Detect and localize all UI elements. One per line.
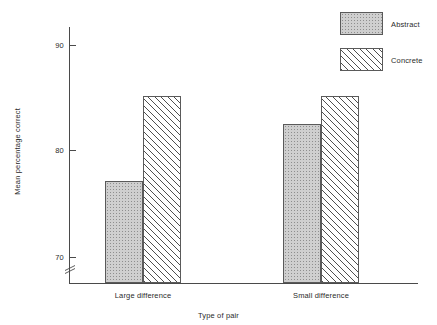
y-tick-label-70: 70 <box>42 253 64 262</box>
stipple-swatch-icon <box>340 12 383 35</box>
y-axis-title: Mean percentage correct <box>13 108 22 195</box>
bar-small-difference-abstract <box>283 124 321 284</box>
y-axis-line <box>69 27 70 283</box>
y-tick-80 <box>70 150 76 151</box>
y-tick-90 <box>70 45 76 46</box>
x-category-label-small-difference: Small difference <box>293 291 349 300</box>
x-axis-title: Type of pair <box>0 311 437 320</box>
y-tick-label-80: 80 <box>42 146 64 155</box>
legend-label-concrete: Concrete <box>391 56 423 65</box>
bar-large-difference-concrete <box>143 96 181 283</box>
x-category-label-large-difference: Large difference <box>115 291 171 300</box>
y-tick-70 <box>70 257 76 258</box>
bar-small-difference-concrete <box>321 96 359 283</box>
hatch-swatch-icon <box>340 48 383 71</box>
y-tick-label-90: 90 <box>42 41 64 50</box>
bar-chart-figure: 90 80 70 Large difference Small differen… <box>0 0 437 325</box>
x-axis-line <box>69 283 418 284</box>
legend-label-abstract: Abstract <box>391 20 420 29</box>
axis-break-icon <box>62 262 78 278</box>
bar-large-difference-abstract <box>105 181 143 283</box>
